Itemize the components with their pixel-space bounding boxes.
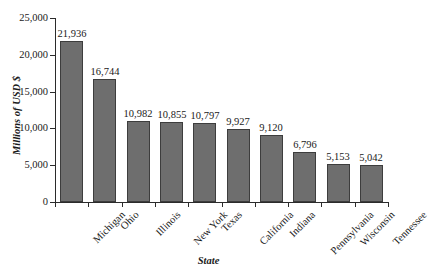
x-axis-tick — [288, 202, 289, 207]
y-axis-tick-label: 25,000 — [0, 13, 48, 23]
y-axis-tick — [50, 165, 56, 166]
y-axis-tick-label-text: 25,000 — [2, 13, 48, 23]
bar-value-label: 9,120 — [245, 122, 297, 133]
y-axis-tick-label: 10,000 — [0, 123, 48, 133]
y-axis-tick-label: 20,000 — [0, 50, 48, 60]
bar — [227, 129, 250, 202]
x-axis-category-label: Illinois — [154, 209, 183, 238]
x-axis-tick — [55, 202, 56, 207]
y-axis-tick-label-text: 20,000 — [2, 50, 48, 60]
x-axis-tick — [388, 202, 389, 207]
bar-value-label: 6,796 — [279, 139, 331, 150]
y-axis-tick-label-text: 15,000 — [2, 87, 48, 97]
x-axis-title: State — [0, 255, 417, 266]
y-axis-tick — [50, 128, 56, 129]
y-axis-line — [55, 18, 56, 203]
bar — [360, 165, 383, 202]
x-axis-tick — [188, 202, 189, 207]
x-axis-tick — [321, 202, 322, 207]
x-axis-category-label-text: Tennessee — [391, 209, 429, 247]
bar — [193, 123, 216, 202]
x-axis-tick — [355, 202, 356, 207]
bar — [127, 121, 150, 202]
x-axis-tick — [255, 202, 256, 207]
y-axis-tick-label-text: 5,000 — [2, 160, 48, 170]
y-axis-tick-label-text: 0 — [2, 197, 48, 207]
x-axis-tick — [155, 202, 156, 207]
bar — [327, 164, 350, 202]
y-axis-tick — [50, 18, 56, 19]
x-axis-category-label: Tennessee — [391, 209, 429, 247]
y-axis-tick-label: 0 — [0, 197, 48, 207]
y-axis-tick-label-text: 10,000 — [2, 123, 48, 133]
bar-value-label: 5,042 — [345, 152, 397, 163]
x-axis-tick — [122, 202, 123, 207]
x-axis-tick — [222, 202, 223, 207]
chart-title — [0, 0, 417, 1]
y-axis-tick — [50, 92, 56, 93]
x-axis-category-label-text: Illinois — [154, 209, 183, 238]
bar-value-label: 21,936 — [46, 28, 98, 39]
y-axis-tick-label: 5,000 — [0, 160, 48, 170]
bar — [160, 122, 183, 202]
y-axis-tick-label: 15,000 — [0, 87, 48, 97]
x-axis-tick — [88, 202, 89, 207]
y-axis-tick — [50, 55, 56, 56]
bar — [93, 79, 116, 202]
bar-value-label: 16,744 — [79, 66, 131, 77]
